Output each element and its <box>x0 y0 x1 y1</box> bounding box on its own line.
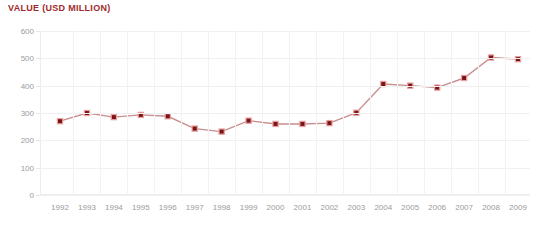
x-axis-tick-label: 2003 <box>347 203 365 212</box>
gridline-vertical <box>478 31 479 195</box>
gridline-vertical <box>154 31 155 195</box>
gridline-horizontal <box>40 86 530 87</box>
gridline-vertical <box>289 31 290 195</box>
gridline-vertical <box>370 31 371 195</box>
y-axis-tick-label: 500 <box>21 54 34 63</box>
y-axis-tick-label: 200 <box>21 136 34 145</box>
gridline-vertical <box>127 31 128 195</box>
chart-container: VALUE (USD MILLION) 0100200300400500600 … <box>0 0 545 232</box>
data-point-marker[interactable] <box>57 119 62 124</box>
x-axis-tick-label: 1993 <box>78 203 96 212</box>
gridline-vertical <box>100 31 101 195</box>
y-axis-tick-label: 400 <box>21 81 34 90</box>
y-axis-tick <box>36 31 40 32</box>
data-point-marker[interactable] <box>327 121 332 126</box>
x-axis-tick-label: 1999 <box>240 203 258 212</box>
y-axis-tick-label: 0 <box>30 191 34 200</box>
x-axis-tick-label: 2006 <box>428 203 446 212</box>
gridline-vertical <box>343 31 344 195</box>
y-axis-labels: 0100200300400500600 <box>0 31 34 195</box>
data-point-marker[interactable] <box>246 118 251 123</box>
x-axis-tick-label: 2009 <box>509 203 527 212</box>
x-axis-tick-label: 1995 <box>132 203 150 212</box>
x-axis-tick-label: 1997 <box>186 203 204 212</box>
gridline-vertical <box>451 31 452 195</box>
y-axis-tick <box>36 86 40 87</box>
y-axis-tick <box>36 113 40 114</box>
x-axis-labels: 1992199319941995199619971998199920002001… <box>40 203 530 223</box>
x-axis-tick-label: 2002 <box>321 203 339 212</box>
x-axis-tick-label: 1992 <box>51 203 69 212</box>
data-point-marker[interactable] <box>111 115 116 120</box>
gridline-horizontal <box>40 58 530 59</box>
x-axis-tick-label: 2000 <box>267 203 285 212</box>
gridline-vertical <box>424 31 425 195</box>
y-axis-tick <box>36 195 40 196</box>
data-point-marker[interactable] <box>219 129 224 134</box>
data-point-marker[interactable] <box>273 121 278 126</box>
gridline-horizontal <box>40 31 530 32</box>
x-axis-tick-label: 1996 <box>159 203 177 212</box>
x-axis-tick-label: 2005 <box>401 203 419 212</box>
plot-area <box>40 31 530 195</box>
chart-title: VALUE (USD MILLION) <box>8 3 111 13</box>
gridline-vertical <box>397 31 398 195</box>
y-axis-tick <box>36 168 40 169</box>
y-axis-tick-label: 100 <box>21 163 34 172</box>
gridline-vertical <box>235 31 236 195</box>
y-axis-tick <box>36 58 40 59</box>
y-axis-tick <box>36 140 40 141</box>
x-axis-tick-label: 2004 <box>374 203 392 212</box>
y-axis-tick-label: 600 <box>21 27 34 36</box>
data-point-marker[interactable] <box>462 75 467 80</box>
x-axis-tick-label: 2001 <box>294 203 312 212</box>
gridline-vertical <box>181 31 182 195</box>
y-axis-tick-label: 300 <box>21 109 34 118</box>
gridline-horizontal <box>40 195 530 196</box>
gridline-vertical <box>73 31 74 195</box>
gridline-horizontal <box>40 113 530 114</box>
gridline-vertical <box>262 31 263 195</box>
gridline-vertical <box>208 31 209 195</box>
x-axis-tick-label: 1994 <box>105 203 123 212</box>
data-point-marker[interactable] <box>300 121 305 126</box>
x-axis-tick-label: 2008 <box>482 203 500 212</box>
gridline-horizontal <box>40 168 530 169</box>
x-axis-tick-label: 1998 <box>213 203 231 212</box>
data-point-marker[interactable] <box>165 114 170 119</box>
gridline-horizontal <box>40 140 530 141</box>
x-axis-tick-label: 2007 <box>455 203 473 212</box>
gridline-vertical <box>316 31 317 195</box>
data-point-marker[interactable] <box>192 126 197 131</box>
gridline-vertical <box>505 31 506 195</box>
